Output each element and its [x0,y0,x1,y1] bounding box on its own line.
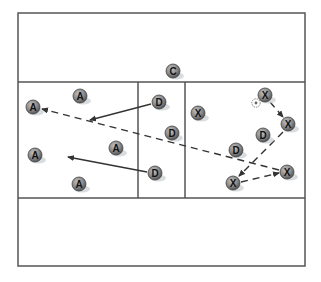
player-token-a3: A [28,148,46,164]
player-label: A [75,179,82,190]
player-token-x3: X [281,117,299,133]
drill-diagram: CAAAAADDDDDXXXXX [0,0,321,282]
player-label: X [230,178,237,189]
arrow-pass-long [42,109,279,170]
player-label: D [151,168,158,179]
arrow-run-d1 [90,104,151,120]
player-token-a2: A [73,89,91,105]
player-label: A [31,150,38,161]
player-token-c1: C [166,64,184,80]
player-token-a4: A [109,141,127,157]
ball-icon [252,99,260,107]
player-label: D [259,130,266,141]
player-token-x1: X [191,106,209,122]
arrow-pass-x2-x3 [270,102,283,117]
player-label: X [285,119,292,130]
player-token-d2: D [165,126,183,142]
arrow-pass-x5-x4 [241,173,279,182]
player-token-a5: A [72,177,90,193]
player-token-d5: D [256,128,274,144]
movement-arrows [42,102,283,182]
player-label: D [232,145,239,156]
player-token-x4: X [280,165,298,181]
player-label: A [29,102,36,113]
arrow-run-d3 [68,157,147,172]
player-tokens: CAAAAADDDDDXXXXX [26,64,299,193]
player-token-d1: D [152,95,170,111]
player-label: X [195,108,202,119]
player-token-d3: D [148,166,166,182]
player-label: D [155,97,162,108]
player-token-x2: X [258,88,276,104]
player-label: X [284,167,291,178]
player-label: A [76,91,83,102]
player-label: A [112,143,119,154]
player-label: D [168,128,175,139]
player-label: C [169,66,176,77]
player-label: X [262,90,269,101]
player-token-a1: A [26,100,44,116]
player-token-d4: D [229,143,247,159]
player-token-x5: X [226,176,244,192]
